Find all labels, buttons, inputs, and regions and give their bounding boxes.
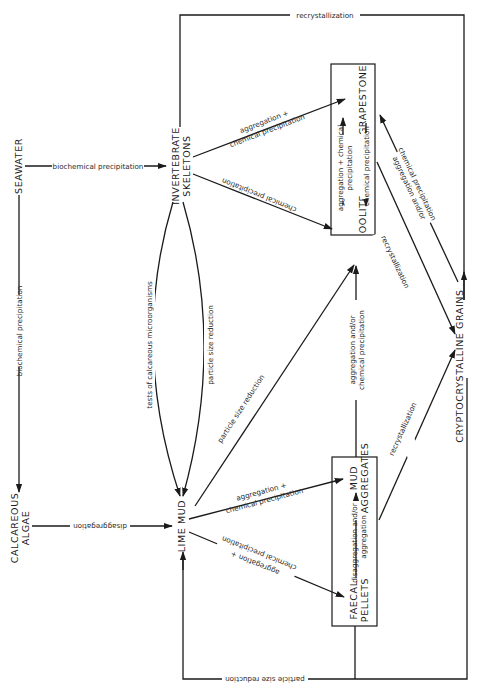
label-tests-microorganisms: tests of calcareous microorganisms [145,281,154,409]
node-invertebrate-skeletons-line1: INVERTEBRATE [170,127,181,205]
node-calcareous-algae-line2: ALGAE [20,511,31,546]
label-skeletons-particle-reduction: particle size reduction [206,305,215,385]
label-grapestone-oolite: chemical precipitation [362,126,371,206]
node-mud-aggregates-line2: AGGREGATES [359,443,370,514]
node-faecal-pellets-line1: FAECAL [348,580,359,619]
tests-microorganisms-arrow [153,202,180,496]
label-recrystallization-top: recrystallization [296,11,353,20]
label-oolite-grapestone-2: precipitation [345,145,354,190]
label-pellets-mudagg-2: aggregation [359,515,368,558]
node-invertebrate-skeletons-line2: SKELETONS [181,135,192,196]
carbonate-grain-diagram: recrystallization biochemical precipitat… [0,0,479,684]
label-seawater-algae: biochemical precipitation [15,286,24,377]
label-mudagg-oolite-2: chemical precipitation [357,310,366,390]
node-faecal-pellets-line2: PELLETS [359,578,370,622]
label-mudagg-oolite-1: aggregation and/or [348,315,357,384]
label-algae-limemud: disaggregation [73,522,127,531]
node-seawater: SEAWATER [13,138,24,194]
label-pellets-mudagg-1: disaggregation and/or [350,503,359,582]
recrystallization-top-line [180,15,464,300]
node-calcareous-algae-line1: CALCAREOUS [9,493,20,564]
node-lime-mud: LIME MUD [176,500,187,553]
label-particle-size-bottom: particle size reduction [225,675,305,684]
skeletons-particle-reduction-arrow [183,202,204,496]
limemud-to-oolite-arrow [195,265,354,506]
label-oolite-grapestone-1: aggregation + chemical [336,125,345,211]
label-seawater-skeletons: biochemical precipitation [53,162,144,171]
node-cryptocrystalline-grains: CRYPTOCRYSTALLINE GRAINS [454,289,465,442]
mudagg-to-crypto-arrow [379,350,455,520]
node-mud-aggregates-line1: MUD [348,466,359,490]
